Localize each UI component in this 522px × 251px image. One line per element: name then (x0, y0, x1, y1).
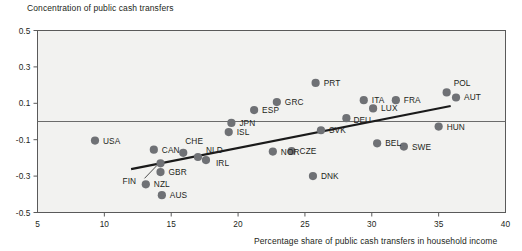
data-point-marker (225, 128, 233, 136)
data-point-label: SWE (412, 143, 431, 151)
plot-area (0, 0, 522, 251)
data-point-marker (158, 191, 166, 199)
x-tick-label: 35 (419, 220, 459, 228)
data-point-label: CAN (162, 146, 180, 154)
data-point-marker (369, 104, 377, 112)
x-tick-label: 5 (18, 220, 58, 228)
x-axis-label: Percentage share of public cash transfer… (254, 236, 497, 246)
data-point-marker (227, 119, 235, 127)
y-tick-label: -0.3 (0, 172, 31, 180)
data-point-marker (373, 139, 381, 147)
x-tick-label: 20 (218, 220, 258, 228)
y-tick-label: 0.1 (0, 99, 31, 107)
data-point-label: DNK (321, 172, 339, 180)
chart-figure: Concentration of public cash transfers U… (0, 0, 522, 251)
data-point-label: ESP (262, 106, 279, 114)
data-point-marker (142, 180, 150, 188)
data-point-label: NZL (154, 180, 170, 188)
y-tick-label: 0.3 (0, 63, 31, 71)
data-point-label: NOR (281, 148, 300, 156)
scatter-plot-svg (0, 0, 522, 251)
data-point-label: PRT (324, 79, 341, 87)
data-point-marker (443, 88, 451, 96)
data-point-label: FIN (123, 177, 137, 185)
data-point-marker (269, 147, 277, 155)
y-tick-label: -0.1 (0, 136, 31, 144)
data-point-marker (194, 153, 202, 161)
data-point-marker (342, 114, 350, 122)
data-point-marker (317, 126, 325, 134)
data-point-marker (202, 156, 210, 164)
data-point-marker (250, 106, 258, 114)
data-point-label: IRL (216, 159, 229, 167)
data-point-label: GBR (169, 168, 187, 176)
data-point-label: AUS (170, 191, 187, 199)
data-point-label: FRA (404, 96, 421, 104)
data-point-marker (312, 79, 320, 87)
x-tick-label: 25 (285, 220, 325, 228)
data-point-marker (309, 172, 317, 180)
x-tick-label: 30 (352, 220, 392, 228)
y-tick-label: -0.5 (0, 209, 31, 217)
data-point-label: DEU (353, 116, 371, 124)
data-point-marker (452, 93, 460, 101)
y-tick-label: 0.5 (0, 27, 31, 35)
data-point-marker (179, 149, 187, 157)
data-point-marker (91, 137, 99, 145)
data-point-label: AUT (464, 93, 481, 101)
data-point-label: CZE (300, 147, 317, 155)
x-tick-label: 10 (84, 220, 124, 228)
x-tick-label: 40 (486, 220, 522, 228)
data-point-marker (156, 168, 164, 176)
data-point-label: ISL (237, 128, 250, 136)
data-point-label: BEL (385, 139, 401, 147)
data-point-label: USA (103, 137, 120, 145)
data-point-label: SVK (329, 126, 346, 134)
data-point-label: NLD (206, 146, 223, 154)
data-point-label: GRC (285, 98, 304, 106)
data-point-label: JPN (239, 119, 255, 127)
data-point-marker (435, 122, 443, 130)
data-point-marker (360, 96, 368, 104)
data-point-label: LUX (381, 104, 397, 112)
data-point-label: CHE (185, 137, 203, 145)
data-point-label: POL (454, 79, 471, 87)
data-point-marker (150, 146, 158, 154)
data-point-label: HUN (447, 123, 465, 131)
data-point-marker (156, 159, 164, 167)
x-tick-label: 15 (151, 220, 191, 228)
